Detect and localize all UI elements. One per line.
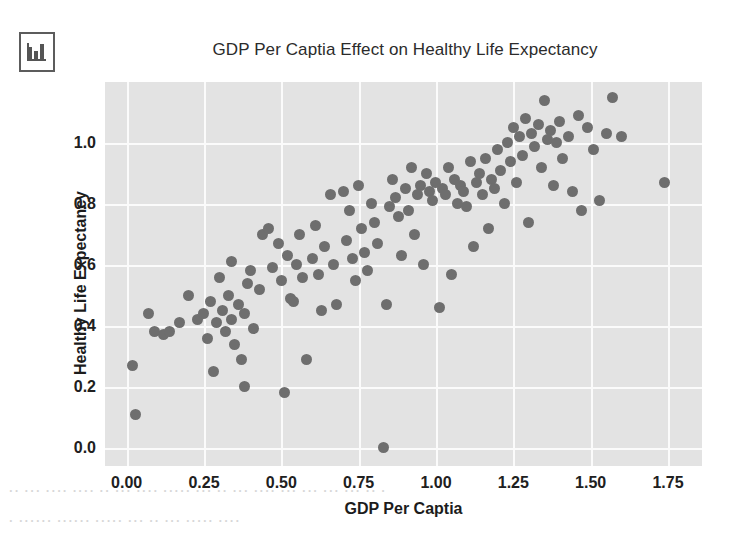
scatter-point bbox=[372, 238, 383, 249]
gridline-vertical bbox=[668, 82, 670, 466]
scatter-point bbox=[563, 131, 574, 142]
scatter-point bbox=[202, 333, 213, 344]
scatter-point bbox=[223, 290, 234, 301]
scatter-point bbox=[307, 253, 318, 264]
x-axis-tick-label: 0.00 bbox=[111, 474, 142, 492]
scatter-point bbox=[220, 326, 231, 337]
scatter-point bbox=[254, 284, 265, 295]
scatter-point bbox=[483, 223, 494, 234]
scatter-point bbox=[601, 128, 612, 139]
x-axis-tick-label: 1.50 bbox=[575, 474, 606, 492]
scatter-point bbox=[164, 326, 175, 337]
scatter-point bbox=[465, 156, 476, 167]
scatter-point bbox=[310, 220, 321, 231]
chart-page: · ·· ···· ··· ···· ····· ···· ·· ····· ·… bbox=[0, 0, 738, 560]
scatter-point bbox=[505, 156, 516, 167]
scatter-point bbox=[390, 192, 401, 203]
scatter-point bbox=[356, 223, 367, 234]
scatter-point bbox=[461, 201, 472, 212]
scatter-point bbox=[499, 198, 510, 209]
scatter-point bbox=[288, 296, 299, 307]
scatter-point bbox=[325, 189, 336, 200]
scatter-point bbox=[239, 308, 250, 319]
scatter-point bbox=[316, 305, 327, 316]
scatter-point bbox=[440, 189, 451, 200]
scatter-point bbox=[229, 339, 240, 350]
scatter-point bbox=[198, 308, 209, 319]
scatter-point bbox=[378, 442, 389, 453]
gridline-vertical bbox=[127, 82, 129, 466]
scatter-point bbox=[536, 162, 547, 173]
scatter-point bbox=[366, 198, 377, 209]
gridline-vertical bbox=[359, 82, 361, 466]
scatter-point bbox=[396, 250, 407, 261]
x-axis-tick-label: 0.75 bbox=[343, 474, 374, 492]
x-axis-tick-label: 1.25 bbox=[498, 474, 529, 492]
page-title: GDP Per Captia Effect on Healthy Life Ex… bbox=[105, 40, 705, 60]
scatter-point bbox=[214, 272, 225, 283]
scatter-point bbox=[400, 183, 411, 194]
scatter-point bbox=[236, 354, 247, 365]
gridline-horizontal bbox=[105, 448, 702, 450]
scatter-point bbox=[174, 317, 185, 328]
x-axis-label: GDP Per Captia bbox=[105, 500, 702, 518]
scatter-point bbox=[539, 95, 550, 106]
scatter-point bbox=[350, 275, 361, 286]
scatter-point bbox=[276, 275, 287, 286]
scatter-point bbox=[458, 186, 469, 197]
scatter-point bbox=[480, 153, 491, 164]
scatter-point bbox=[520, 113, 531, 124]
scatter-point bbox=[226, 314, 237, 325]
scatter-point bbox=[282, 250, 293, 261]
scatter-point bbox=[294, 229, 305, 240]
x-axis-tick-label: 1.75 bbox=[652, 474, 683, 492]
scatter-point bbox=[588, 144, 599, 155]
scatter-point bbox=[338, 186, 349, 197]
scatter-point bbox=[489, 183, 500, 194]
scatter-point bbox=[477, 189, 488, 200]
scatter-point bbox=[239, 381, 250, 392]
scatter-point bbox=[551, 137, 562, 148]
scatter-point bbox=[183, 290, 194, 301]
gridline-vertical bbox=[436, 82, 438, 466]
scatter-point bbox=[557, 153, 568, 164]
scatter-point bbox=[217, 305, 228, 316]
scatter-point bbox=[468, 241, 479, 252]
gridline-horizontal bbox=[105, 204, 702, 206]
bar-chart-icon[interactable] bbox=[19, 32, 55, 72]
scatter-point bbox=[421, 168, 432, 179]
scatter-point bbox=[347, 253, 358, 264]
scatter-point bbox=[607, 92, 618, 103]
scatter-point bbox=[341, 235, 352, 246]
scatter-point bbox=[301, 354, 312, 365]
gridline-vertical bbox=[591, 82, 593, 466]
scatter-point bbox=[127, 360, 138, 371]
scatter-point bbox=[403, 205, 414, 216]
scatter-point bbox=[369, 217, 380, 228]
scatter-point bbox=[573, 110, 584, 121]
scatter-point bbox=[331, 299, 342, 310]
scatter-point bbox=[406, 162, 417, 173]
gridline-horizontal bbox=[105, 326, 702, 328]
scatter-point bbox=[384, 201, 395, 212]
scatter-point bbox=[529, 141, 540, 152]
scatter-point bbox=[554, 116, 565, 127]
scatter-point bbox=[474, 168, 485, 179]
scatter-point bbox=[242, 278, 253, 289]
x-axis-tick-label: 0.50 bbox=[266, 474, 297, 492]
y-axis-label: Healthy Life Expectancy bbox=[72, 91, 90, 475]
scatter-point bbox=[511, 177, 522, 188]
scatter-point bbox=[267, 262, 278, 273]
scatter-point bbox=[319, 241, 330, 252]
scatter-point bbox=[328, 259, 339, 270]
scatter-point bbox=[517, 150, 528, 161]
x-axis-tick-label: 1.00 bbox=[420, 474, 451, 492]
scatter-point bbox=[495, 165, 506, 176]
scatter-point bbox=[297, 272, 308, 283]
scatter-point bbox=[567, 186, 578, 197]
scatter-point bbox=[344, 205, 355, 216]
scatter-point bbox=[279, 387, 290, 398]
scatter-point bbox=[545, 125, 556, 136]
scatter-point bbox=[514, 131, 525, 142]
scatter-point bbox=[359, 247, 370, 258]
